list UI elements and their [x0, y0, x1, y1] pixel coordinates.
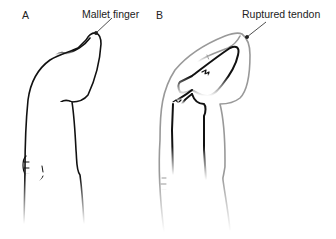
- bones-b-illustration: [172, 47, 239, 180]
- finger-a-illustration: [23, 33, 101, 224]
- diagram-canvas: [0, 0, 336, 239]
- panel-b-letter: B: [156, 9, 163, 21]
- mallet-finger-label: Mallet finger: [82, 8, 139, 20]
- panel-a-letter: A: [22, 9, 29, 21]
- ruptured-tendon-label: Ruptured tendon: [242, 8, 320, 20]
